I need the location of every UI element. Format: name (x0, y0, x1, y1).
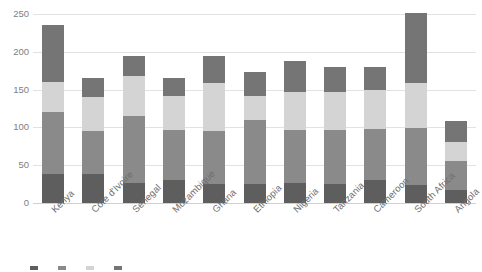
bar-segment (123, 56, 145, 76)
bar-segment (324, 67, 346, 92)
bar-segment (445, 142, 467, 162)
bar-segment (324, 130, 346, 184)
stacked-bar-chart: 050100150200250 KenyaCôte d'IvoireSenega… (0, 0, 482, 272)
y-axis-tick-label: 250 (1, 9, 29, 19)
bar-segment (324, 92, 346, 130)
y-axis-tick-label: 200 (1, 47, 29, 57)
bar-segment (364, 90, 386, 129)
bar-segment (82, 97, 104, 131)
bar-stack (445, 121, 467, 203)
bar-segment (405, 83, 427, 128)
y-axis-tick-label: 100 (1, 122, 29, 132)
legend-swatch (30, 266, 38, 270)
legend-item (86, 266, 97, 270)
bar-stack (163, 78, 185, 203)
y-axis-tick-label: 150 (1, 85, 29, 95)
bar-stack (405, 13, 427, 204)
bar-segment (244, 120, 266, 184)
bar-stack (364, 67, 386, 203)
bar-segment (123, 76, 145, 116)
bar-stack (284, 61, 306, 203)
x-axis-labels: KenyaCôte d'IvoireSenegalMozambiqueGhana… (0, 203, 482, 255)
bar-stack (324, 67, 346, 203)
bar-segment (42, 112, 64, 173)
bar-segment (163, 96, 185, 129)
bar-segment (405, 128, 427, 185)
legend (0, 266, 482, 272)
bar-segment (364, 67, 386, 90)
bar-segment (82, 78, 104, 97)
bar-segment (284, 61, 306, 92)
legend-item (58, 266, 69, 270)
bar-segment (82, 131, 104, 174)
bar-segment (284, 92, 306, 130)
bar-segment (364, 129, 386, 180)
bar-segment (163, 78, 185, 97)
bar-segment (244, 96, 266, 119)
bar-segment (445, 121, 467, 141)
legend-item (114, 266, 125, 270)
y-axis: 050100150200250 (0, 0, 29, 203)
legend-swatch (86, 266, 94, 270)
bar-segment (203, 56, 225, 82)
bar-segment (163, 130, 185, 180)
bar-segment (42, 25, 64, 82)
bar-segment (405, 13, 427, 83)
legend-swatch (58, 266, 66, 270)
bar-segment (42, 82, 64, 112)
bars-container (33, 14, 476, 203)
legend-swatch (114, 266, 122, 270)
y-axis-tick-label: 50 (1, 160, 29, 170)
bar-stack (42, 25, 64, 203)
legend-item (30, 266, 41, 270)
bar-segment (203, 83, 225, 131)
bar-stack (244, 72, 266, 203)
bar-segment (284, 130, 306, 184)
bar-segment (244, 72, 266, 96)
bar-stack (82, 78, 104, 203)
